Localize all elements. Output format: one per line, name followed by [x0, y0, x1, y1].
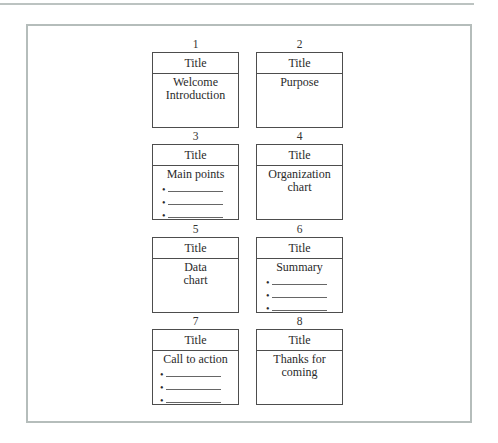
slide-box-6: 6 Title Summary • • • — [256, 237, 343, 313]
slide-title: Title — [153, 53, 238, 74]
slide-box-8: 8 Title Thanks for coming — [256, 329, 343, 405]
slide-content: Purpose — [257, 74, 342, 89]
bullet-icon: • — [160, 382, 165, 393]
slide-content: Summary • • • — [257, 259, 342, 314]
slide-content: Call to action • • • — [153, 351, 238, 406]
bullet-item: • — [160, 380, 238, 393]
slide-body-line: chart — [257, 181, 342, 194]
slide-title: Title — [257, 53, 342, 74]
slide-title: Title — [257, 330, 342, 351]
slide-content: Organization chart — [257, 166, 342, 194]
bullet-icon: • — [162, 184, 167, 195]
slide-number: 4 — [257, 130, 342, 143]
bullet-blank-line — [166, 389, 221, 390]
slide-box-3: 3 Title Main points • • • — [152, 144, 239, 220]
slide-body-line: Introduction — [153, 89, 238, 102]
slide-body-line: Main points — [153, 168, 238, 181]
bullet-item: • — [266, 288, 342, 301]
slide-title: Title — [257, 238, 342, 259]
bullet-blank-line — [168, 204, 223, 205]
slide-box-2: 2 Title Purpose — [256, 52, 343, 128]
slide-body-line: coming — [257, 366, 342, 379]
slide-title: Title — [257, 145, 342, 166]
slide-content: Welcome Introduction — [153, 74, 238, 102]
bullet-blank-line — [272, 284, 327, 285]
bullet-icon: • — [162, 210, 167, 221]
slide-body-line: Summary — [257, 261, 342, 274]
bullet-item: • — [162, 208, 238, 221]
bullet-list: • • • — [153, 182, 238, 221]
bullet-list: • • • — [257, 275, 342, 314]
slide-body-line: chart — [153, 274, 238, 287]
slide-content: Thanks for coming — [257, 351, 342, 379]
slide-number: 6 — [257, 223, 342, 236]
slide-title: Title — [153, 330, 238, 351]
bullet-item: • — [162, 182, 238, 195]
slide-title: Title — [153, 238, 238, 259]
bullet-item: • — [162, 195, 238, 208]
bullet-blank-line — [166, 376, 221, 377]
slide-number: 5 — [153, 223, 238, 236]
slide-box-5: 5 Title Data chart — [152, 237, 239, 313]
bullet-icon: • — [160, 395, 165, 406]
bullet-list: • • • — [153, 367, 238, 406]
slide-body-line: Purpose — [257, 76, 342, 89]
top-rule-divider — [0, 3, 474, 5]
bullet-item: • — [266, 301, 342, 314]
bullet-item: • — [160, 393, 238, 406]
bullet-blank-line — [168, 191, 223, 192]
slide-title: Title — [153, 145, 238, 166]
slide-box-7: 7 Title Call to action • • • — [152, 329, 239, 405]
bullet-icon: • — [160, 369, 165, 380]
storyboard-frame — [26, 24, 472, 423]
bullet-blank-line — [272, 297, 327, 298]
slide-number: 7 — [153, 315, 238, 328]
bullet-item: • — [160, 367, 238, 380]
slide-number: 1 — [153, 38, 238, 51]
bullet-icon: • — [266, 303, 271, 314]
slide-content: Main points • • • — [153, 166, 238, 221]
bullet-item: • — [266, 275, 342, 288]
bullet-blank-line — [166, 402, 221, 403]
slide-number: 2 — [257, 38, 342, 51]
slide-content: Data chart — [153, 259, 238, 287]
slide-body-line: Call to action — [153, 353, 238, 366]
bullet-blank-line — [168, 217, 223, 218]
slide-number: 8 — [257, 315, 342, 328]
slide-number: 3 — [153, 130, 238, 143]
bullet-icon: • — [162, 197, 167, 208]
slide-box-4: 4 Title Organization chart — [256, 144, 343, 220]
slide-box-1: 1 Title Welcome Introduction — [152, 52, 239, 128]
bullet-icon: • — [266, 277, 271, 288]
bullet-icon: • — [266, 290, 271, 301]
bullet-blank-line — [272, 310, 327, 311]
